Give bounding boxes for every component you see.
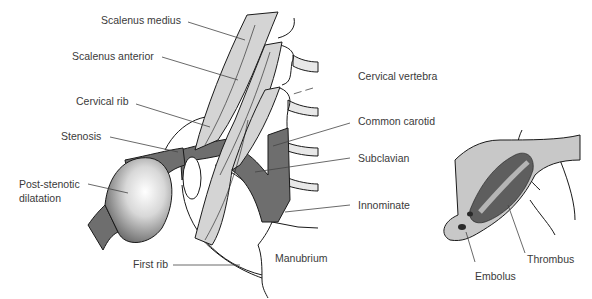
cervical-rib [183, 157, 201, 199]
label-common-carotid: Common carotid [358, 115, 435, 127]
label-manubrium: Manubrium [275, 252, 328, 264]
label-dilatation: dilatation [19, 192, 61, 204]
label-subclavian: Subclavian [358, 152, 409, 164]
label-scalenus-medius: Scalenus medius [101, 14, 181, 26]
label-cervical-vertebra: Cervical vertebra [358, 70, 437, 82]
embolus-clot [458, 224, 466, 230]
label-innominate: Innominate [358, 199, 410, 211]
label-thrombus: Thrombus [527, 253, 574, 265]
label-post-stenotic: Post-stenotic [19, 178, 80, 190]
label-first-rib: First rib [133, 258, 168, 270]
label-cervical-rib: Cervical rib [76, 95, 129, 107]
occluded-artery-inset [444, 130, 580, 262]
label-stenosis: Stenosis [61, 130, 101, 142]
label-embolus: Embolus [475, 270, 516, 282]
label-scalenus-anterior: Scalenus anterior [72, 50, 154, 62]
manubrium [258, 222, 272, 298]
